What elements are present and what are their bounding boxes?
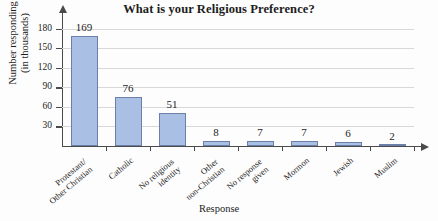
gridline bbox=[62, 48, 414, 49]
y-axis-label-line2: (in thousands) bbox=[19, 13, 31, 73]
bar-value-label: 169 bbox=[64, 22, 104, 33]
bar[interactable] bbox=[115, 97, 142, 146]
bar-value-label: 8 bbox=[196, 127, 236, 138]
gridline bbox=[62, 68, 414, 69]
y-axis-tick bbox=[56, 107, 62, 108]
y-axis-tick bbox=[56, 29, 62, 30]
plot-area: 169765187762 bbox=[62, 19, 414, 146]
bar-value-label: 51 bbox=[152, 99, 192, 110]
y-axis-label: Number responding (in thousands) bbox=[2, 0, 36, 108]
bar[interactable] bbox=[203, 141, 230, 146]
bar[interactable] bbox=[335, 142, 362, 146]
bar-value-label: 2 bbox=[372, 131, 412, 142]
bar-value-label: 7 bbox=[284, 127, 324, 138]
bar[interactable] bbox=[247, 141, 274, 146]
x-axis-tick bbox=[282, 146, 283, 151]
bar-value-label: 7 bbox=[240, 127, 280, 138]
y-axis-tick-label: 30 bbox=[20, 121, 52, 131]
x-axis-tick bbox=[370, 146, 371, 151]
x-axis-tick bbox=[106, 146, 107, 151]
y-axis-label-line1: Number responding bbox=[7, 1, 19, 85]
bar-value-label: 76 bbox=[108, 83, 148, 94]
x-axis-tick bbox=[194, 146, 195, 151]
y-axis-tick bbox=[56, 48, 62, 49]
x-axis-arrow-icon bbox=[421, 143, 429, 151]
bar[interactable] bbox=[71, 36, 98, 146]
y-axis-arrow-icon bbox=[59, 5, 67, 13]
x-axis-tick bbox=[326, 146, 327, 151]
bar[interactable] bbox=[159, 113, 186, 146]
gridline bbox=[62, 29, 414, 30]
y-axis-tick bbox=[56, 68, 62, 69]
x-axis-tick bbox=[238, 146, 239, 151]
x-axis-line bbox=[62, 146, 422, 147]
bar[interactable] bbox=[379, 144, 406, 146]
y-axis-tick bbox=[56, 87, 62, 88]
x-axis-tick bbox=[150, 146, 151, 151]
y-axis-tick bbox=[56, 126, 62, 127]
bar-value-label: 6 bbox=[328, 128, 368, 139]
chart-figure: What is your Religious Preference? Numbe… bbox=[0, 0, 438, 221]
bar[interactable] bbox=[291, 141, 318, 146]
x-axis-tick bbox=[414, 146, 415, 151]
